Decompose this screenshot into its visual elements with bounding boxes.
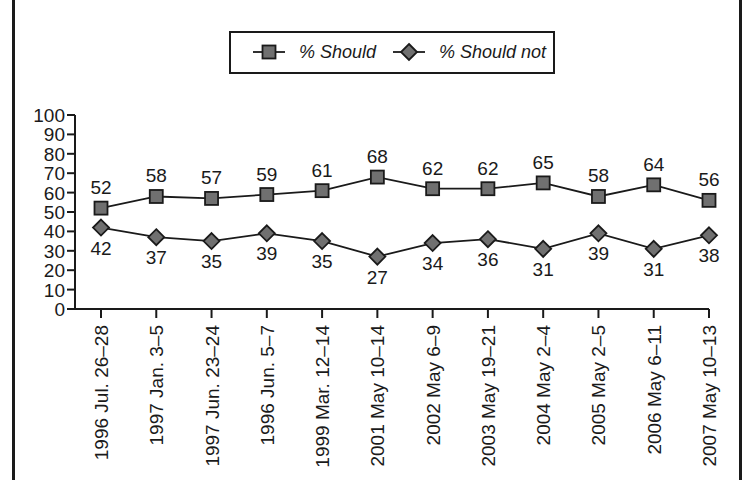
- y-tick-label: 0: [54, 299, 65, 320]
- series-should: 525857596168626265586456: [90, 146, 719, 215]
- diamond-marker-icon: [590, 225, 606, 241]
- y-tick-label: 70: [44, 163, 65, 184]
- square-marker-icon: [95, 202, 108, 215]
- data-label: 35: [312, 251, 333, 272]
- diamond-marker-icon: [401, 44, 417, 60]
- diamond-marker-icon: [314, 233, 330, 249]
- legend-item-should: % Should: [253, 42, 377, 62]
- data-label: 38: [698, 245, 719, 266]
- diamond-marker-icon: [204, 233, 220, 249]
- data-label: 65: [533, 152, 554, 173]
- square-marker-icon: [205, 192, 218, 205]
- series-line: [101, 228, 709, 257]
- data-label: 35: [201, 251, 222, 272]
- x-tick-label: 2005 May 2–5: [588, 325, 609, 445]
- x-tick-label: 2007 May 10–13: [699, 325, 720, 467]
- data-label: 59: [256, 164, 277, 185]
- data-label: 62: [477, 158, 498, 179]
- square-marker-icon: [481, 182, 494, 195]
- y-tick-label: 30: [44, 241, 65, 262]
- x-tick-label: 1996 Jul. 26–28: [91, 325, 112, 460]
- y-tick-label: 50: [44, 202, 65, 223]
- legend-label: % Should not: [439, 42, 547, 62]
- data-label: 68: [367, 146, 388, 167]
- y-tick-label: 60: [44, 183, 65, 204]
- data-label: 39: [588, 243, 609, 264]
- y-tick-label: 100: [33, 105, 65, 126]
- diamond-marker-icon: [148, 229, 164, 245]
- x-tick-label: 2002 May 6–9: [423, 325, 444, 445]
- x-tick-label: 2003 May 19–21: [478, 325, 499, 467]
- diamond-marker-icon: [701, 227, 717, 243]
- series-line: [101, 177, 709, 208]
- legend: % Should% Should not: [253, 42, 547, 62]
- line-chart: % Should% Should not 0102030405060708090…: [0, 0, 751, 480]
- data-label: 39: [256, 243, 277, 264]
- data-label: 42: [90, 238, 111, 259]
- diamond-marker-icon: [646, 241, 662, 257]
- x-tick-label: 1999 Mar. 12–14: [312, 325, 333, 468]
- diamond-marker-icon: [93, 220, 109, 236]
- data-label: 27: [367, 267, 388, 288]
- y-tick-label: 40: [44, 221, 65, 242]
- y-tick-label: 80: [44, 144, 65, 165]
- square-marker-icon: [260, 188, 273, 201]
- data-label: 52: [90, 177, 111, 198]
- square-marker-icon: [703, 194, 716, 207]
- y-tick-label: 10: [44, 280, 65, 301]
- x-tick-label: 1996 Jun. 5–7: [257, 325, 278, 445]
- data-label: 58: [588, 165, 609, 186]
- diamond-marker-icon: [480, 231, 496, 247]
- data-label: 62: [422, 158, 443, 179]
- x-tick-label: 1997 Jun. 23–24: [202, 325, 223, 467]
- square-marker-icon: [263, 46, 276, 59]
- data-label: 56: [698, 169, 719, 190]
- square-marker-icon: [316, 184, 329, 197]
- series: 5258575961686262655864564237353935273436…: [90, 146, 719, 288]
- diamond-marker-icon: [535, 241, 551, 257]
- series-should-not: 423735393527343631393138: [90, 220, 719, 288]
- square-marker-icon: [537, 176, 550, 189]
- y-tick-label: 20: [44, 260, 65, 281]
- square-marker-icon: [426, 182, 439, 195]
- data-label: 31: [643, 259, 664, 280]
- x-tick-label: 2001 May 10–14: [367, 325, 388, 467]
- x-tick-label: 2006 May 6–11: [644, 325, 665, 455]
- x-tick-label: 2004 May 2–4: [533, 325, 554, 446]
- data-label: 57: [201, 167, 222, 188]
- diamond-marker-icon: [425, 235, 441, 251]
- square-marker-icon: [371, 171, 384, 184]
- y-tick-label: 90: [44, 124, 65, 145]
- square-marker-icon: [150, 190, 163, 203]
- square-marker-icon: [647, 178, 660, 191]
- square-marker-icon: [592, 190, 605, 203]
- data-label: 34: [422, 253, 444, 274]
- diamond-marker-icon: [369, 249, 385, 265]
- data-label: 61: [312, 160, 333, 181]
- legend-item-should-not: % Should not: [393, 42, 547, 62]
- data-label: 58: [146, 165, 167, 186]
- x-tick-label: 1997 Jan. 3–5: [146, 325, 167, 445]
- diamond-marker-icon: [259, 225, 275, 241]
- data-label: 31: [533, 259, 554, 280]
- data-label: 64: [643, 154, 665, 175]
- data-label: 36: [477, 249, 498, 270]
- legend-label: % Should: [299, 42, 377, 62]
- data-label: 37: [146, 247, 167, 268]
